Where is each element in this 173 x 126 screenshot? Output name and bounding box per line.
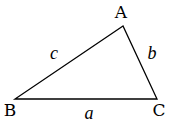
side-label-c: c (50, 43, 58, 63)
side-label-b: b (148, 43, 157, 63)
triangle-diagram: A B C a b c (0, 0, 173, 126)
vertex-label-a: A (114, 2, 128, 22)
side-label-a: a (85, 103, 94, 123)
vertex-label-b: B (4, 100, 17, 120)
vertex-label-c: C (152, 100, 165, 120)
triangle-abc (15, 26, 157, 99)
